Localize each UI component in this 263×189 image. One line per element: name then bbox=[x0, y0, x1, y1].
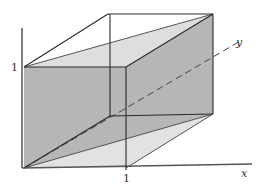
x-tick-label: 1 bbox=[123, 172, 130, 185]
z-tick-label: 1 bbox=[11, 61, 18, 74]
cube-diagram: 1 1 x y bbox=[0, 0, 263, 189]
x-axis-label: x bbox=[241, 167, 248, 180]
y-axis-label: y bbox=[235, 36, 243, 49]
